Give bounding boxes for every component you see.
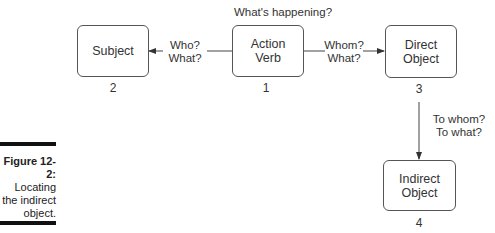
- what-label-2: What?: [320, 52, 368, 65]
- to-whom-label: To whom?: [425, 113, 493, 126]
- whom-what-label: Whom? What?: [320, 39, 368, 65]
- object-label: Object: [403, 52, 439, 66]
- subject-node: Subject: [77, 25, 149, 77]
- to-what-label: To what?: [425, 126, 493, 139]
- action-verb-node: Action Verb: [232, 25, 304, 77]
- subject-number: 2: [103, 81, 123, 95]
- action-verb-number: 1: [256, 81, 276, 95]
- indirect-label: Indirect: [399, 172, 440, 186]
- caption-line-2: the indirect: [0, 194, 56, 207]
- subject-label: Subject: [92, 44, 134, 58]
- whats-happening-label: What's happening?: [228, 6, 338, 19]
- who-label: Who?: [160, 39, 210, 52]
- indirect-object-node: Indirect Object: [383, 160, 456, 211]
- indirect-object-number: 4: [409, 216, 429, 230]
- object-label-2: Object: [399, 186, 440, 200]
- direct-label: Direct: [403, 38, 439, 52]
- caption-line-3: object.: [0, 207, 56, 220]
- verb-label: Verb: [251, 51, 286, 65]
- caption-top-rule: [0, 142, 56, 146]
- direct-object-number: 3: [409, 82, 429, 96]
- figure-caption: Figure 12-2: Locating the indirect objec…: [0, 155, 56, 220]
- to-whom-what-label: To whom? To what?: [425, 113, 493, 139]
- direct-object-node: Direct Object: [385, 25, 457, 78]
- action-label: Action: [251, 37, 286, 51]
- figure-number: Figure 12-2:: [0, 155, 56, 181]
- whom-label: Whom?: [320, 39, 368, 52]
- caption-line-1: Locating: [0, 181, 56, 194]
- caption-bottom-rule: [0, 221, 56, 225]
- who-what-label: Who? What?: [160, 39, 210, 65]
- what-label: What?: [160, 52, 210, 65]
